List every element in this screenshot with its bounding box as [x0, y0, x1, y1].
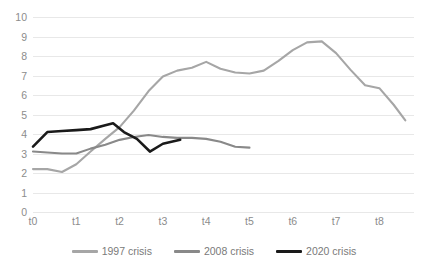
gridline [33, 212, 414, 213]
x-tick-label: t1 [72, 216, 81, 227]
x-tick-label: t0 [29, 216, 38, 227]
y-tick-label: 3 [21, 148, 27, 159]
crisis-comparison-line-chart: 012345678910 t0t1t2t3t4t5t6t7t8 1997 cri… [0, 0, 428, 274]
y-tick-label: 0 [21, 207, 27, 218]
legend-label: 2008 crisis [204, 246, 254, 257]
y-tick-label: 7 [21, 70, 27, 81]
x-tick-label: t4 [202, 216, 211, 227]
x-tick-label: t8 [375, 216, 384, 227]
y-tick-label: 4 [21, 129, 27, 140]
series-layer [33, 17, 414, 212]
legend-label: 1997 crisis [102, 246, 152, 257]
series-line-1997-crisis [33, 41, 405, 172]
legend-swatch-icon [72, 250, 98, 253]
y-tick-label: 2 [21, 168, 27, 179]
legend-swatch-icon [174, 250, 200, 253]
y-tick-label: 8 [21, 51, 27, 62]
y-axis: 012345678910 [0, 17, 27, 212]
x-axis: t0t1t2t3t4t5t6t7t8 [33, 216, 414, 232]
y-tick-label: 9 [21, 31, 27, 42]
chart-legend: 1997 crisis2008 crisis2020 crisis [0, 246, 428, 257]
y-tick-label: 6 [21, 90, 27, 101]
x-tick-label: t6 [288, 216, 297, 227]
legend-label: 2020 crisis [306, 246, 356, 257]
legend-item[interactable]: 1997 crisis [72, 246, 152, 257]
x-tick-label: t5 [245, 216, 254, 227]
x-tick-label: t3 [158, 216, 167, 227]
y-tick-label: 1 [21, 187, 27, 198]
legend-item[interactable]: 2008 crisis [174, 246, 254, 257]
x-tick-label: t2 [115, 216, 124, 227]
x-tick-label: t7 [332, 216, 341, 227]
legend-swatch-icon [276, 250, 302, 253]
legend-item[interactable]: 2020 crisis [276, 246, 356, 257]
y-tick-label: 5 [21, 109, 27, 120]
plot-area [33, 17, 414, 212]
y-tick-label: 10 [15, 12, 27, 23]
